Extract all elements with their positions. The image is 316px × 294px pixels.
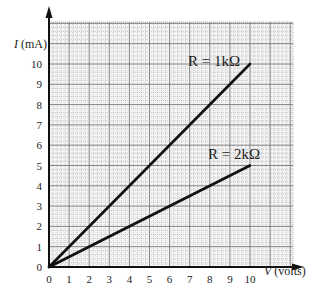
y-tick-label: 3 (37, 200, 43, 212)
y-tick-label: 9 (37, 78, 43, 90)
x-tick-label: 6 (167, 273, 173, 285)
x-tick-label: 2 (86, 273, 92, 285)
x-tick-label: 0 (46, 273, 52, 285)
x-tick-label: 8 (207, 273, 213, 285)
y-tick-label: 10 (31, 58, 43, 70)
x-tick-label: 1 (66, 273, 72, 285)
y-axis-label: I (mA) (13, 37, 47, 51)
iv-chart: 012345678910012345678910 I (mA) V (volts… (0, 0, 316, 294)
x-tick-label: 7 (187, 273, 193, 285)
x-tick-label: 3 (107, 273, 113, 285)
y-tick-label: 7 (37, 119, 43, 131)
y-tick-label: 1 (37, 241, 43, 253)
x-tick-label: 9 (227, 273, 233, 285)
y-tick-label: 4 (37, 180, 43, 192)
series-label-1k: R = 1kΩ (188, 53, 240, 69)
x-tick-label: 4 (127, 273, 133, 285)
x-tick-label: 10 (245, 273, 257, 285)
y-tick-label: 8 (37, 99, 43, 111)
x-tick-label: 5 (147, 273, 153, 285)
series-label-2k: R = 2kΩ (208, 146, 260, 162)
y-tick-label: 5 (37, 160, 43, 172)
y-tick-label: 6 (37, 139, 43, 151)
y-tick-label: 0 (37, 261, 43, 273)
x-axis-label: V (volts) (264, 264, 306, 278)
y-tick-label: 2 (37, 220, 43, 232)
